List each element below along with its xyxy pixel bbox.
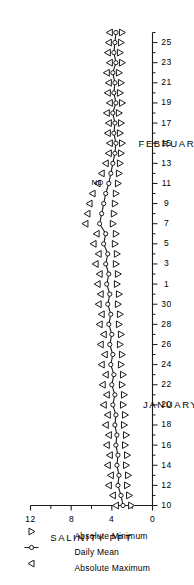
x-tick-18: 18 <box>161 420 171 429</box>
x-tick-7: 7 <box>163 219 168 228</box>
rotated-figure-group: Absolute MaximumDaily MeanAbsolute Minim… <box>0 0 194 585</box>
x-tick-10: 10 <box>161 501 171 510</box>
chart-plot-area <box>0 0 194 585</box>
x-tick-1: 1 <box>163 279 168 288</box>
x-tick-15: 15 <box>161 138 171 147</box>
y-axis-title: SALINITY PPT <box>50 532 132 542</box>
x-tick-25: 25 <box>161 38 171 47</box>
x-tick-11: 11 <box>161 179 171 188</box>
x-tick-12: 12 <box>161 481 171 490</box>
salinity-time-series-chart: Absolute MaximumDaily MeanAbsolute Minim… <box>0 0 194 585</box>
figure-canvas: Absolute MaximumDaily MeanAbsolute Minim… <box>0 0 194 585</box>
x-tick-26: 26 <box>161 340 171 349</box>
x-tick-16: 16 <box>161 440 171 449</box>
x-tick-9: 9 <box>163 199 168 208</box>
x-tick-17: 17 <box>161 118 171 127</box>
y-tick-8: 8 <box>68 515 73 524</box>
x-tick-30: 30 <box>161 299 171 308</box>
x-tick-19: 19 <box>161 98 171 107</box>
no-data-annotation: ND <box>91 178 103 186</box>
legend-daily-mean: Daily Mean <box>74 547 119 556</box>
x-tick-13: 13 <box>161 159 171 168</box>
y-tick-12: 12 <box>25 515 35 524</box>
x-tick-3: 3 <box>163 259 168 268</box>
x-tick-28: 28 <box>161 320 171 329</box>
x-tick-23: 23 <box>161 58 171 67</box>
x-tick-20: 20 <box>161 400 171 409</box>
x-tick-24: 24 <box>161 360 171 369</box>
y-tick-4: 4 <box>109 515 114 524</box>
x-tick-14: 14 <box>161 461 171 470</box>
x-tick-5: 5 <box>163 239 168 248</box>
legend-abs-max: Absolute Maximum <box>74 563 149 572</box>
x-tick-21: 21 <box>161 78 171 87</box>
y-tick-0: 0 <box>149 515 154 524</box>
x-tick-22: 22 <box>161 380 171 389</box>
